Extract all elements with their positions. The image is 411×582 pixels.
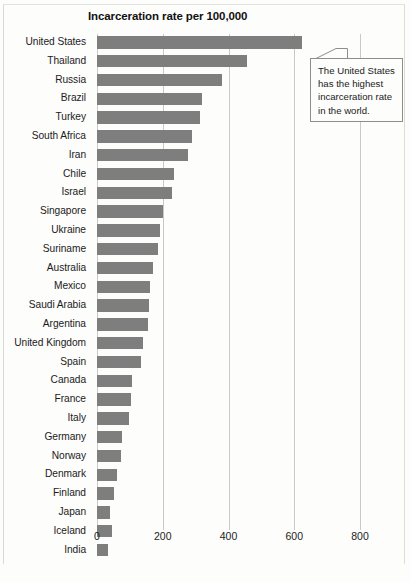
- category-label: Israel: [61, 186, 86, 197]
- bar-row: Japan: [0, 504, 411, 523]
- bar: [97, 111, 200, 123]
- x-tick-200: 200: [154, 530, 172, 542]
- bar-row: Spain: [0, 354, 411, 373]
- category-label: Germany: [44, 431, 86, 442]
- bar: [97, 487, 114, 499]
- x-axis-tick-labels: 0200400600800: [0, 530, 411, 550]
- category-label: Singapore: [40, 205, 86, 216]
- category-label: Spain: [60, 356, 86, 367]
- chart-title: Incarceration rate per 100,000: [88, 10, 247, 22]
- category-label: Russia: [55, 74, 86, 85]
- callout-text-line: The United States: [318, 64, 398, 77]
- category-label: Thailand: [47, 55, 86, 66]
- bar-row: Denmark: [0, 466, 411, 485]
- bar: [97, 130, 192, 142]
- category-label: Norway: [52, 450, 86, 461]
- callout-text-line: incarceration rate: [318, 90, 398, 103]
- bar: [97, 393, 131, 405]
- bar-row: Iran: [0, 147, 411, 166]
- category-label: Chile: [63, 168, 86, 179]
- chart-page: Incarceration rate per 100,000 United St…: [0, 0, 411, 582]
- callout-text-line: in the world.: [318, 104, 398, 117]
- bar-row: Suriname: [0, 241, 411, 260]
- bar-row: South Africa: [0, 128, 411, 147]
- bar: [97, 450, 121, 462]
- bar: [97, 262, 153, 274]
- bar: [97, 375, 132, 387]
- callout-text-line: has the highest: [318, 77, 398, 90]
- bar: [97, 168, 174, 180]
- category-label: Finland: [53, 487, 86, 498]
- category-label: South Africa: [32, 130, 86, 141]
- category-label: Argentina: [43, 318, 86, 329]
- category-label: Canada: [51, 374, 86, 385]
- bar-row: Israel: [0, 184, 411, 203]
- bar: [97, 36, 302, 48]
- bar: [97, 356, 141, 368]
- category-label: Australia: [47, 262, 86, 273]
- page-border-top: [3, 4, 405, 5]
- category-label: Suriname: [43, 243, 86, 254]
- category-label: United Kingdom: [14, 337, 86, 348]
- bar-row: United States: [0, 34, 411, 53]
- bar-row: Finland: [0, 485, 411, 504]
- category-label: Ukraine: [51, 224, 86, 235]
- bar: [97, 318, 148, 330]
- bar-row: Ukraine: [0, 222, 411, 241]
- bar-row: Mexico: [0, 278, 411, 297]
- x-tick-400: 400: [220, 530, 238, 542]
- bar: [97, 281, 150, 293]
- bar: [97, 149, 188, 161]
- x-tick-600: 600: [285, 530, 303, 542]
- category-label: Iran: [69, 149, 86, 160]
- bar: [97, 412, 129, 424]
- bar-row: Saudi Arabia: [0, 297, 411, 316]
- bar-row: United Kingdom: [0, 335, 411, 354]
- x-tick-800: 800: [351, 530, 369, 542]
- category-label: Turkey: [56, 111, 86, 122]
- bar-row: Canada: [0, 372, 411, 391]
- category-label: Mexico: [54, 280, 86, 291]
- bar-row: Chile: [0, 166, 411, 185]
- category-label: Saudi Arabia: [29, 299, 86, 310]
- category-label: Italy: [68, 412, 86, 423]
- bar: [97, 187, 172, 199]
- bar-row: France: [0, 391, 411, 410]
- category-label: Japan: [58, 506, 86, 517]
- bar: [97, 74, 222, 86]
- category-label: United States: [25, 36, 86, 47]
- bar: [97, 93, 202, 105]
- bar: [97, 299, 149, 311]
- category-label: Denmark: [45, 468, 86, 479]
- bar: [97, 506, 110, 518]
- bar-row: Italy: [0, 410, 411, 429]
- x-tick-0: 0: [94, 530, 100, 542]
- bar: [97, 205, 163, 217]
- bar: [97, 55, 247, 67]
- bar-row: Australia: [0, 260, 411, 279]
- bar-row: Argentina: [0, 316, 411, 335]
- bar: [97, 243, 158, 255]
- bar: [97, 337, 143, 349]
- bar-row: Singapore: [0, 203, 411, 222]
- united-states-callout: The United Stateshas the highestincarcer…: [310, 58, 403, 122]
- category-label: France: [55, 393, 86, 404]
- bar-row: Germany: [0, 429, 411, 448]
- bar: [97, 224, 160, 236]
- bar: [97, 469, 117, 481]
- bar-row: Norway: [0, 448, 411, 467]
- category-label: Brazil: [61, 92, 86, 103]
- bar: [97, 431, 122, 443]
